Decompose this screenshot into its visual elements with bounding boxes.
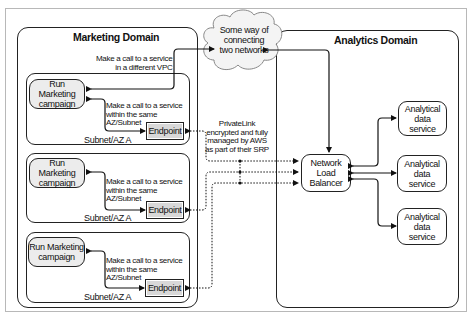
label-line: two networks	[214, 45, 274, 55]
label-line: connecting	[214, 35, 274, 45]
cloud-label: Some way of connecting two networks	[214, 25, 274, 55]
label-line: Some way of	[214, 25, 274, 35]
